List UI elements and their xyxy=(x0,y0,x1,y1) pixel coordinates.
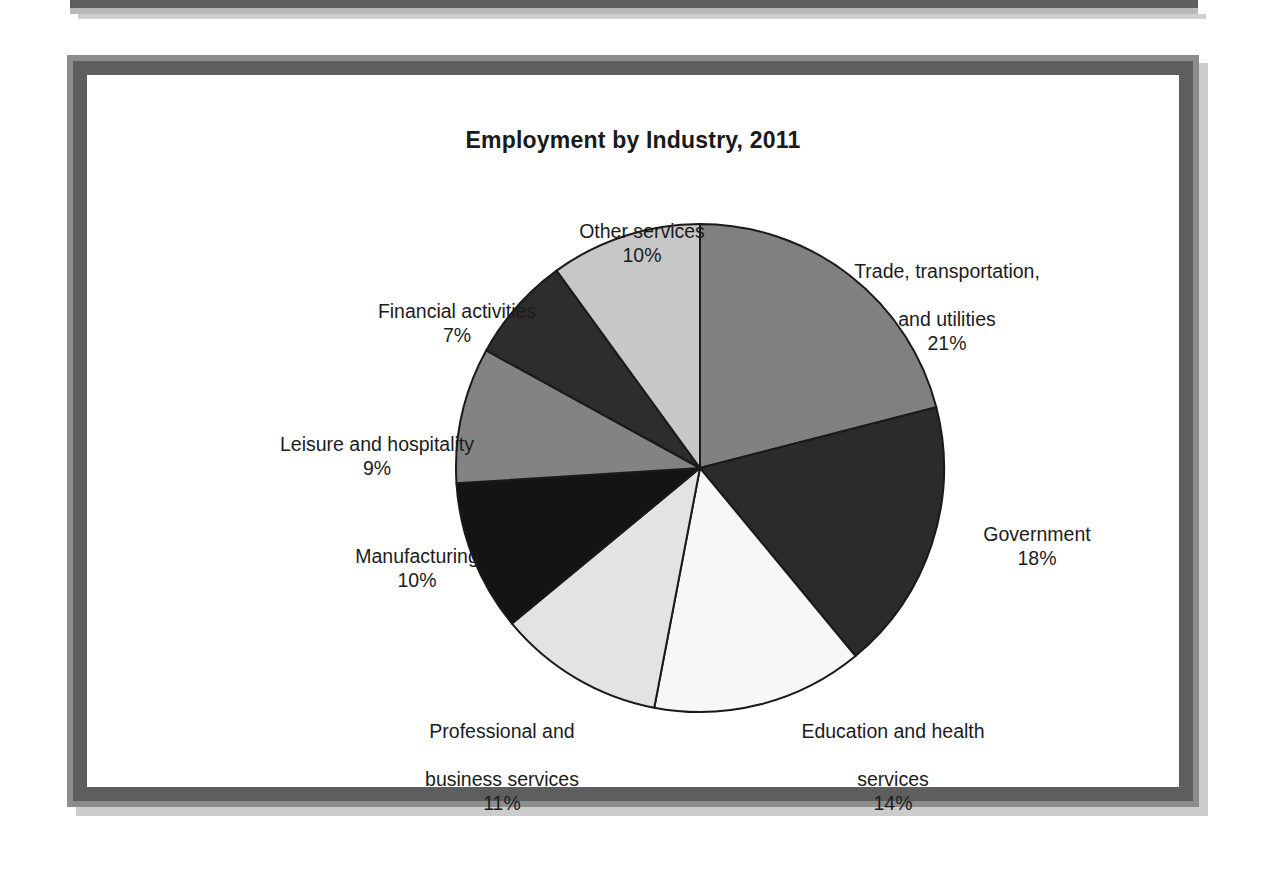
pie-label-manufacturing-percent: 10% xyxy=(302,568,532,592)
pie-label-financial-percent: 7% xyxy=(332,323,582,347)
figure-frame: Employment by Industry, 2011 Trade, tran… xyxy=(67,55,1199,807)
pie-label-education-line2: services xyxy=(857,768,929,790)
pie-label-leisure-line1: Leisure and hospitality xyxy=(280,433,474,455)
scanned-page: Employment by Industry, 2011 Trade, tran… xyxy=(0,0,1267,872)
figure-frame-inner-border: Employment by Industry, 2011 Trade, tran… xyxy=(73,61,1193,801)
pie-label-professional-and-business-services: Professional and business services 11% xyxy=(372,695,632,839)
pie-label-other-services: Other services 10% xyxy=(517,195,767,291)
pie-label-education-percent: 14% xyxy=(767,791,1019,815)
pie-label-professional-line2: business services xyxy=(425,768,579,790)
pie-label-education-line1: Education and health xyxy=(801,720,984,742)
pie-label-other-percent: 10% xyxy=(517,243,767,267)
figure-shadow-bottom xyxy=(76,807,1208,816)
pie-label-other-line1: Other services xyxy=(579,220,705,242)
pie-label-government-line1: Government xyxy=(983,523,1090,545)
pie-label-manufacturing-line1: Manufacturing xyxy=(355,545,479,567)
pie-label-manufacturing: Manufacturing 10% xyxy=(302,520,532,616)
pie-label-leisure-and-hospitality: Leisure and hospitality 9% xyxy=(232,408,522,504)
previous-figure-frame-shadow xyxy=(78,14,1206,19)
pie-label-government-percent: 18% xyxy=(922,546,1152,570)
pie-label-trade-line1: Trade, transportation, xyxy=(854,260,1040,282)
pie-label-trade: Trade, transportation, and utilities 21% xyxy=(822,235,1072,379)
pie-label-financial-line1: Financial activities xyxy=(378,300,536,322)
pie-chart: Trade, transportation, and utilities 21%… xyxy=(87,75,1179,787)
pie-label-trade-line2: and utilities xyxy=(898,308,996,330)
pie-label-leisure-percent: 9% xyxy=(232,456,522,480)
pie-label-professional-line1: Professional and xyxy=(429,720,574,742)
figure-shadow-right xyxy=(1199,63,1208,815)
figure-canvas: Employment by Industry, 2011 Trade, tran… xyxy=(87,75,1179,787)
pie-label-education-and-health-services: Education and health services 14% xyxy=(767,695,1019,839)
previous-figure-frame-fragment xyxy=(70,0,1198,14)
pie-label-government: Government 18% xyxy=(922,498,1152,594)
pie-label-trade-percent: 21% xyxy=(822,331,1072,355)
pie-label-professional-percent: 11% xyxy=(372,791,632,815)
